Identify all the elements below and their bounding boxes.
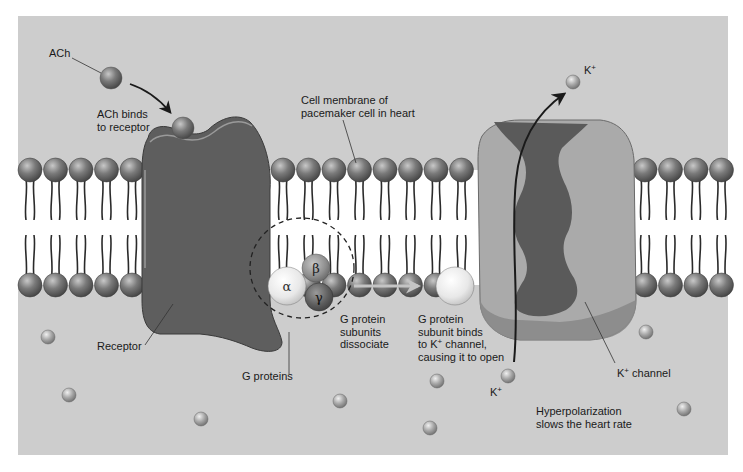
phospholipid-head [120,273,144,297]
receptor-protein [142,117,282,351]
potassium-channel [478,120,636,340]
label-k-ion-bottom: K+ [490,386,502,399]
phospholipid-head [684,273,708,297]
phospholipid-head [44,158,68,182]
phospholipid-head [710,273,734,297]
phospholipid-head [633,273,657,297]
potassium-ion [62,388,76,402]
label-k-channel: K+ channel [617,367,671,380]
dissociated-alpha-subunit [436,267,474,305]
phospholipid-head [659,158,683,182]
label-g-protein-subunits-dissociate: G protein subunits dissociate [340,313,389,351]
potassium-ion [423,421,437,435]
phospholipid-head [271,158,295,182]
phospholipid-head [69,158,93,182]
label-g-protein-binds-channel: G protein subunit binds to K+ channel, c… [418,313,504,363]
phospholipid-head [44,273,68,297]
phospholipid-head [69,273,93,297]
phospholipid-head [297,158,321,182]
gamma-symbol: γ [315,290,323,305]
label-k-ion-top: K+ [584,64,596,77]
phospholipid-head [95,273,119,297]
label-receptor: Receptor [97,340,142,353]
label-ach-binds-receptor: ACh binds to receptor [97,108,150,133]
phospholipid-head [710,158,734,182]
phospholipid-head [18,158,42,182]
ach-bound-molecule [172,117,194,139]
potassium-ion [639,325,653,339]
label-hyperpolarization: Hyperpolarization slows the heart rate [536,405,632,430]
phospholipid-head [322,158,346,182]
phospholipid-head [450,158,474,182]
phospholipid-head [348,158,372,182]
beta-symbol: β [312,261,320,276]
label-g-proteins: G proteins [242,370,293,383]
phospholipid-head [399,158,423,182]
phospholipid-head [120,158,144,182]
phospholipid-head [95,158,119,182]
potassium-ion [41,330,55,344]
potassium-ion [566,75,580,89]
ach-molecule [100,67,122,89]
g-protein-signaling-diagram: α β γ [0,0,743,472]
label-ach: ACh [49,47,70,60]
phospholipid-head [373,158,397,182]
potassium-ion [430,374,444,388]
potassium-ion [501,369,515,383]
phospholipid-head [684,158,708,182]
potassium-ion [677,402,691,416]
phospholipid-head [18,273,42,297]
alpha-symbol: α [283,279,292,294]
potassium-ion [333,394,347,408]
label-cell-membrane: Cell membrane of pacemaker cell in heart [301,94,415,119]
phospholipid-head [659,273,683,297]
phospholipid-head [633,158,657,182]
potassium-ion [194,412,208,426]
phospholipid-head [424,158,448,182]
